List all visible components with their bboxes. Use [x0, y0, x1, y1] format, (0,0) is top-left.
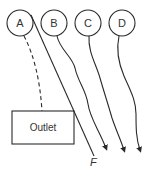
diagram: A B C D F Outlet [0, 0, 150, 169]
node-c-label: C [84, 17, 92, 29]
line-a-to-f [31, 15, 94, 156]
outlet-label: Outlet [30, 122, 57, 133]
node-a: A [7, 10, 33, 36]
node-b: B [41, 10, 67, 36]
node-d-label: D [118, 17, 126, 29]
arrow-from-d [118, 36, 140, 150]
node-a-label: A [16, 17, 24, 29]
node-c: C [75, 10, 101, 36]
arrow-from-c [89, 36, 124, 150]
arrow-from-b [57, 36, 106, 148]
line-label-f: F [90, 156, 98, 168]
node-b-label: B [50, 17, 57, 29]
dashed-line-a-to-outlet [24, 36, 42, 111]
node-d: D [109, 10, 135, 36]
outlet-box: Outlet [12, 111, 74, 144]
